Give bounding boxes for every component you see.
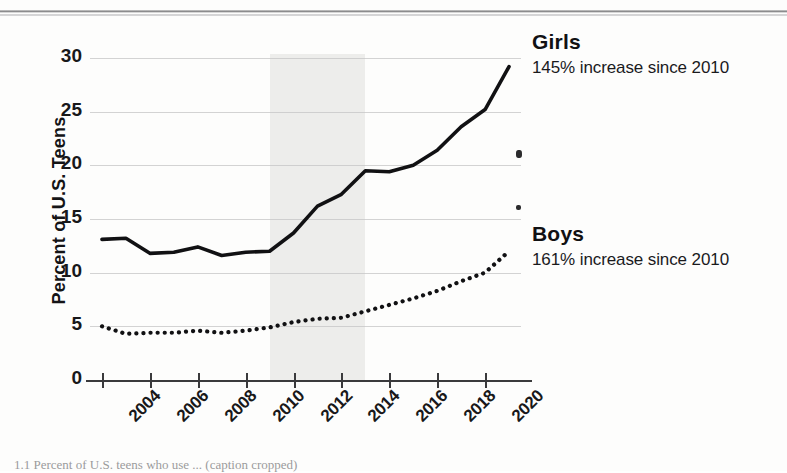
series-note-boys: 161% increase since 2010	[532, 250, 729, 270]
scan-speck-artifact	[516, 205, 521, 210]
x-tick-label-2006: 2006	[173, 386, 213, 426]
x-tick-label-2016: 2016	[412, 386, 452, 426]
y-tick-label-5: 5	[22, 313, 82, 335]
series-label-girls: Girls	[532, 30, 581, 54]
x-tick-label-2020: 2020	[508, 386, 548, 426]
series-note-girls: 145% increase since 2010	[532, 58, 729, 78]
x-tick-2004	[102, 373, 104, 388]
figure-caption: 1.1 Percent of U.S. teens who use ... (c…	[14, 457, 774, 473]
y-tick-label-25: 25	[22, 99, 82, 121]
y-axis-tick-labels: 051015202530	[20, 0, 82, 471]
scan-speck-artifact	[516, 150, 522, 158]
x-tick-label-2004: 2004	[125, 386, 165, 426]
y-tick-label-20: 20	[22, 152, 82, 174]
y-tick-label-30: 30	[22, 45, 82, 67]
x-tick-2012	[294, 373, 296, 388]
series-label-boys: Boys	[532, 222, 584, 246]
y-tick-label-15: 15	[22, 206, 82, 228]
y-tick-label-0: 0	[22, 367, 82, 389]
y-tick-label-10: 10	[22, 260, 82, 282]
x-tick-2016	[389, 373, 391, 388]
x-axis-line	[86, 380, 532, 382]
series-line-girls	[102, 67, 509, 256]
x-tick-label-2012: 2012	[316, 386, 356, 426]
x-tick-label-2018: 2018	[460, 386, 500, 426]
scan-artifact-line	[0, 10, 787, 13]
x-tick-label-2010: 2010	[268, 386, 308, 426]
plot-area	[90, 58, 521, 380]
x-tick-2018	[437, 373, 439, 388]
x-tick-2006	[150, 373, 152, 388]
x-tick-2008	[198, 373, 200, 388]
x-tick-label-2014: 2014	[364, 386, 404, 426]
x-tick-2014	[341, 373, 343, 388]
series-line-boys	[102, 251, 509, 334]
x-tick-2020	[485, 373, 487, 388]
x-tick-label-2008: 2008	[221, 386, 261, 426]
x-tick-2010	[246, 373, 248, 388]
scan-artifact-line-secondary	[0, 14, 787, 16]
series-lines	[90, 58, 521, 380]
